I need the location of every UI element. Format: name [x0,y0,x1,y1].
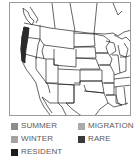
legend-label: RESIDENT [21,147,62,157]
legend-item-rare: RARE [78,134,111,144]
legend-label: SUMMER [21,121,57,131]
migration-swatch [78,123,85,130]
rare-swatch [78,136,85,143]
legend-label: WINTER [21,134,53,144]
legend-item-migration: MIGRATION [78,121,134,131]
legend-item-resident: RESIDENT [11,147,62,157]
legend-label: MIGRATION [88,121,134,131]
resident-swatch [11,149,18,156]
summer-swatch [11,123,18,130]
legend-item-winter: WINTER [11,134,53,144]
winter-swatch [11,136,18,143]
range-map [9,2,131,116]
us-states-outline [10,3,131,116]
range-highlight-resident [21,27,29,63]
legend-item-summer: SUMMER [11,121,57,131]
legend-label: RARE [88,134,111,144]
